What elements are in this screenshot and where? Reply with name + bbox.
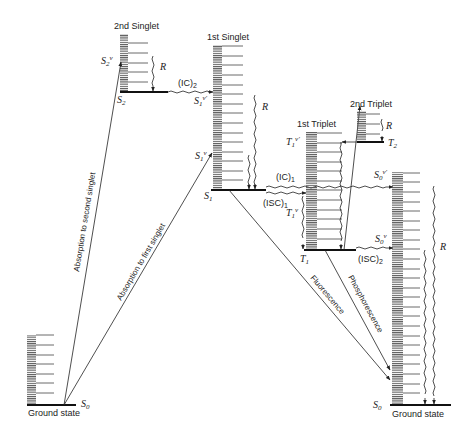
second-singlet-title: 2nd Singlet xyxy=(114,21,160,31)
absorption-first-label: Absorption to first singlet xyxy=(115,221,167,302)
ground-state-right: Ground state S0 S0v' S0v R xyxy=(373,168,451,419)
svg-text:(IC)2: (IC)2 xyxy=(178,78,197,89)
absorption-second-label: Absorption to second singlet xyxy=(72,171,97,272)
isc2-transition: (ISC)2 xyxy=(356,247,393,265)
s1v-prime-label: S1v' xyxy=(194,94,208,108)
r-label-s1: R xyxy=(261,101,268,112)
second-triplet: 2nd Triplet T2 R xyxy=(350,99,398,150)
first-triplet: 1st Triplet T1 T1v' T1v xyxy=(286,119,356,266)
svg-text:(ISC)1: (ISC)1 xyxy=(263,198,288,209)
t1-label: T1 xyxy=(300,253,309,266)
svg-text:(IC)1: (IC)1 xyxy=(276,172,295,183)
second-singlet: 2nd Singlet S2 S2v R xyxy=(101,21,168,107)
first-triplet-title: 1st Triplet xyxy=(297,119,337,129)
r-label-s2: R xyxy=(159,61,166,72)
s0v-label: S0v xyxy=(375,232,388,246)
s0-right-label: S0 xyxy=(373,399,382,412)
s1-label: S1 xyxy=(204,190,213,203)
ground-state-right-label: Ground state xyxy=(392,409,444,419)
first-singlet-title: 1st Singlet xyxy=(207,32,250,42)
t1v-prime-label: T1v' xyxy=(286,135,300,149)
r-label-s0: R xyxy=(439,241,446,252)
t2-label: T2 xyxy=(388,137,398,150)
t1v-label: T1v xyxy=(286,206,299,220)
ic2-transition: (IC)2 xyxy=(168,78,213,93)
s2-label: S2 xyxy=(117,94,126,107)
s0v-prime-label: S0v' xyxy=(374,168,388,182)
first-singlet: 1st Singlet S1 S1v' S1v R xyxy=(194,32,268,203)
second-triplet-title: 2nd Triplet xyxy=(350,99,393,109)
t2-to-t1-ic xyxy=(341,142,357,145)
ground-state-left-label: Ground state xyxy=(28,408,80,418)
svg-text:(ISC)2: (ISC)2 xyxy=(358,254,383,265)
jablonski-diagram: Ground state S0 2nd Singlet S2 S2v R (IC… xyxy=(0,0,471,439)
r-label-t2: R xyxy=(385,120,392,131)
s0-left-label: S0 xyxy=(81,398,90,411)
absorption-transitions: Absorption to second singlet Absorption … xyxy=(64,62,212,405)
isc1-transition: (ISC)1 xyxy=(263,192,306,209)
s2v-label: S2v xyxy=(101,54,114,68)
s1v-label: S1v xyxy=(195,149,208,163)
